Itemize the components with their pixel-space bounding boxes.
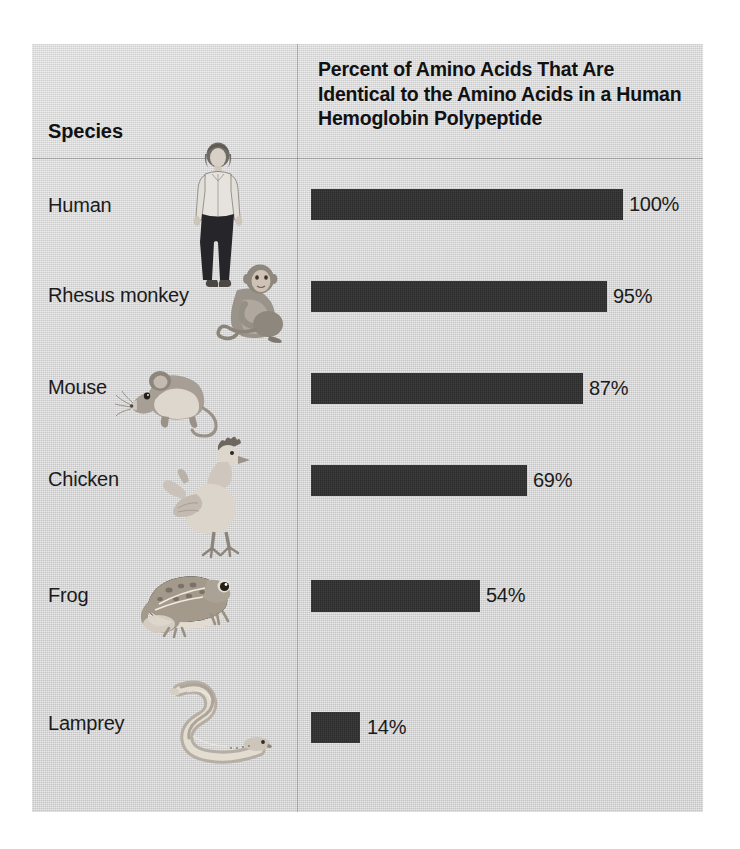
species-name-chicken: Chicken: [48, 468, 119, 491]
bar-rhesus-monkey: [311, 281, 607, 312]
species-name-frog: Frog: [48, 584, 88, 607]
species-name-mouse: Mouse: [48, 376, 107, 399]
lamprey-illustration: [137, 680, 277, 764]
species-column-header: Species: [48, 120, 123, 143]
species-name-rhesus-monkey: Rhesus monkey: [48, 284, 189, 307]
mouse-illustration: [115, 356, 227, 440]
species-name-lamprey: Lamprey: [48, 712, 124, 735]
hemoglobin-similarity-figure: Species Percent of Amino Acids That Are …: [32, 44, 703, 812]
bar-value-frog: 54%: [486, 584, 525, 607]
table-row: Mouse: [32, 348, 703, 440]
bar-lamprey: [311, 712, 360, 743]
bar-value-rhesus-monkey: 95%: [613, 285, 652, 308]
table-row: Frog: [32, 548, 703, 654]
table-row: Lamprey: [32, 654, 703, 764]
frog-illustration: [129, 566, 247, 638]
bar-mouse: [311, 373, 583, 404]
table-row: Chicken: [32, 440, 703, 532]
rhesus-monkey-illustration: [195, 260, 291, 352]
bar-chicken: [311, 465, 527, 496]
bar-value-chicken: 69%: [533, 469, 572, 492]
table-row: Human: [32, 164, 703, 256]
chicken-illustration: [160, 432, 270, 564]
bar-value-lamprey: 14%: [367, 716, 406, 739]
table-row: Rhesus monkey: [32, 256, 703, 348]
bar-human: [311, 189, 623, 220]
bar-frog: [311, 580, 480, 612]
header-divider: [32, 158, 703, 159]
species-name-human: Human: [48, 194, 111, 217]
value-column-header: Percent of Amino Acids That Are Identica…: [318, 57, 693, 131]
bar-value-human: 100%: [629, 193, 679, 216]
bar-value-mouse: 87%: [589, 377, 628, 400]
